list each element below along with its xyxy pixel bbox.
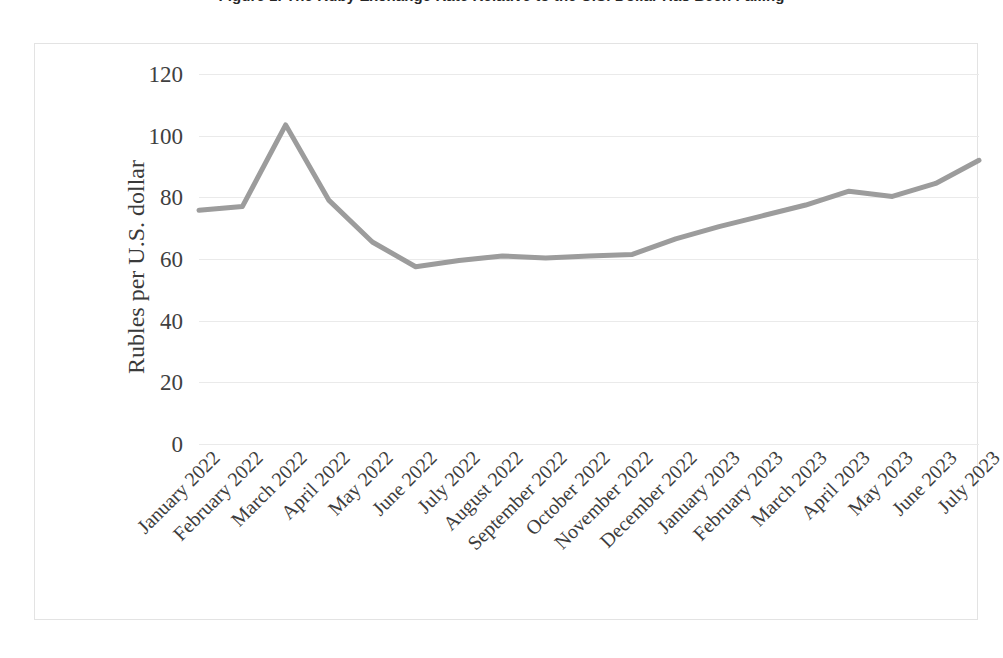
- plot-area: 020406080100120: [199, 74, 979, 444]
- x-axis-tick-labels: January 2022February 2022March 2022April…: [199, 447, 979, 617]
- line-series-rubles-per-dollar: [199, 74, 979, 444]
- y-axis-tick-label: 0: [172, 433, 184, 456]
- y-axis-tick-label: 120: [149, 63, 184, 86]
- data-line-path: [199, 125, 979, 267]
- y-axis-tick-label: 60: [160, 248, 183, 271]
- y-axis-title: Rubles per U.S. dollar: [121, 77, 151, 457]
- y-axis-tick-label: 40: [160, 309, 183, 332]
- figure-title: Figure 1. The Ruby Exchange Rate Relativ…: [0, 0, 1003, 4]
- y-axis-tick-label: 100: [149, 124, 184, 147]
- gridline: [199, 444, 979, 445]
- y-axis-tick-label: 20: [160, 371, 183, 394]
- chart-frame: Rubles per U.S. dollar 020406080100120 J…: [34, 43, 978, 620]
- y-axis-tick-label: 80: [160, 186, 183, 209]
